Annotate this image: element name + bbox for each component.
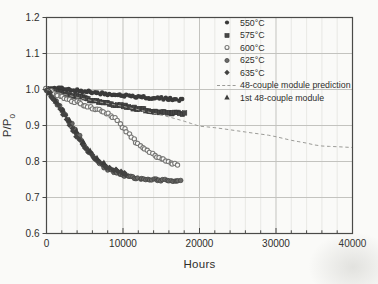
y-tick-label: 1.2 [26, 12, 40, 23]
x-tick-label: 10000 [109, 238, 137, 249]
legend-item-575-c: 575°C [216, 30, 351, 41]
legend-marker-circle-gray [216, 55, 238, 66]
legend-marker-square-filled [216, 30, 238, 41]
y-tick-label: 0.6 [26, 228, 40, 239]
legend-marker-triangle-filled [216, 92, 238, 103]
y-axis-label-main: P/P [1, 119, 13, 138]
legend-marker-diamond-filled [216, 67, 238, 78]
legend-item-625-c: 625°C [216, 55, 351, 66]
legend-item-48-couple-module-prediction: 48-couple module prediction [216, 80, 351, 91]
legend-label: 1st 48-couple module [238, 93, 324, 103]
legend-marker-circle-filled [216, 17, 238, 28]
legend-item-1st-48-couple-module: 1st 48-couple module [216, 92, 351, 103]
y-tick-label: 0.9 [26, 120, 40, 131]
chart-legend: 550°C575°C600°C625°C635°C48-couple modul… [216, 17, 351, 103]
legend-item-550-c: 550°C [216, 17, 351, 28]
x-axis-label: Hours [46, 258, 353, 270]
x-tick-label: 30000 [262, 238, 290, 249]
y-axis-label-sub: 0 [8, 114, 17, 118]
legend-label: 625°C [238, 55, 265, 65]
y-tick-label: 0.8 [26, 156, 40, 167]
legend-label: 575°C [238, 30, 265, 40]
degradation-chart-figure: 0100002000030000400000.60.70.80.91.01.11… [0, 0, 378, 284]
x-tick-label: 20000 [186, 238, 214, 249]
legend-item-635-c: 635°C [216, 67, 351, 78]
y-axis-label: P/P0 [1, 71, 16, 181]
legend-label: 48-couple module prediction [238, 80, 351, 90]
y-tick-label: 1.0 [26, 84, 40, 95]
x-tick-label: 0 [44, 238, 50, 249]
legend-label: 600°C [238, 43, 265, 53]
legend-item-600-c: 600°C [216, 42, 351, 53]
legend-marker-dashed-line [216, 80, 238, 91]
x-tick-label: 40000 [339, 238, 367, 249]
legend-label: 635°C [238, 68, 265, 78]
legend-label: 550°C [238, 18, 265, 28]
y-tick-label: 0.7 [26, 192, 40, 203]
legend-marker-circle-open [216, 42, 238, 53]
y-tick-label: 1.1 [26, 48, 40, 59]
